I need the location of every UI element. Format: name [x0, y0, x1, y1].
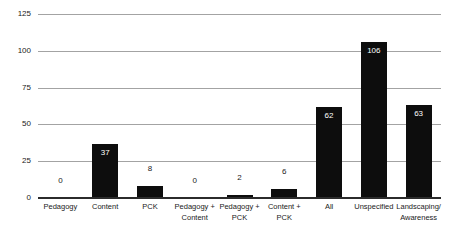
x-category-label-9: Landscaping/ Awareness	[391, 201, 447, 223]
y-gridline-125	[38, 14, 441, 15]
y-tick-label-25: 25	[0, 156, 31, 166]
y-tick-label-100: 100	[0, 46, 31, 56]
value-label-9: 63	[399, 109, 439, 119]
value-label-3: 8	[130, 164, 170, 174]
bar-8	[361, 42, 387, 198]
bar-chart: 02550751001250Pedagogy37Content8PCK0Peda…	[0, 0, 458, 235]
value-label-8: 106	[354, 46, 394, 56]
value-label-5: 2	[220, 173, 260, 183]
value-label-2: 37	[85, 148, 125, 158]
y-tick-label-0: 0	[0, 193, 31, 203]
y-tick-label-75: 75	[0, 83, 31, 93]
value-label-4: 0	[175, 176, 215, 186]
value-label-7: 62	[309, 111, 349, 121]
x-axis-line	[38, 197, 441, 199]
y-tick-label-125: 125	[0, 9, 31, 19]
value-label-1: 0	[40, 176, 80, 186]
value-label-6: 6	[264, 167, 304, 177]
y-tick-label-50: 50	[0, 119, 31, 129]
